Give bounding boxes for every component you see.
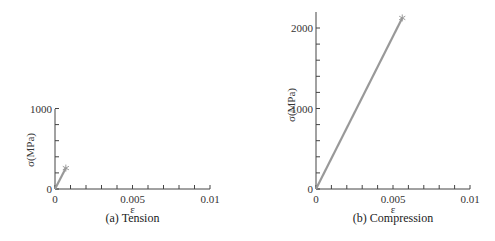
stress-strain-line	[55, 168, 66, 189]
y-tick-label: 2000	[291, 22, 314, 34]
x-tick-label: 0	[313, 193, 319, 205]
figure: 00.0050.0101000εσ(MPa)(a) Tension 00.005…	[0, 0, 495, 241]
y-tick-label: 0	[308, 183, 314, 195]
x-tick-label: 0.01	[200, 193, 219, 205]
stress-strain-line	[316, 18, 402, 189]
x-tick-label: 0	[52, 193, 58, 205]
y-tick-label: 1000	[30, 103, 53, 115]
x-tick-label: 0.01	[460, 193, 479, 205]
tension-chart: 00.0050.0101000εσ(MPa)(a) Tension	[24, 103, 220, 226]
compression-chart: 00.0050.01010002000εσ(MPa)(b) Compressio…	[285, 12, 480, 225]
y-axis-title: σ(MPa)	[24, 133, 37, 167]
y-axis-title: σ(MPa)	[285, 88, 298, 122]
y-tick-label: 0	[47, 183, 53, 195]
chart-caption: (a) Tension	[106, 211, 160, 225]
chart-caption: (b) Compression	[353, 211, 433, 225]
